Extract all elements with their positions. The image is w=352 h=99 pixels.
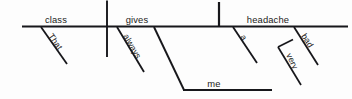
word-label-modifier-a: a: [238, 33, 249, 43]
word-label-modifier-that: That: [46, 31, 65, 52]
word-label-subject: class: [45, 14, 67, 25]
sentence-diagram-canvas: class gives headache me That always a ba…: [0, 0, 352, 99]
indirect-object-slant-line: [154, 27, 184, 90]
word-label-indirect-object: me: [207, 78, 220, 89]
word-label-modifier-always: always: [121, 32, 143, 60]
sentence-diagram-svg: class gives headache me That always a ba…: [0, 0, 352, 99]
a-modifier-line: [233, 27, 257, 63]
word-label-modifier-bad: bad: [299, 32, 315, 50]
word-label-direct-object: headache: [247, 14, 289, 25]
very-connector-line: [278, 40, 293, 48]
word-label-verb: gives: [126, 14, 149, 25]
